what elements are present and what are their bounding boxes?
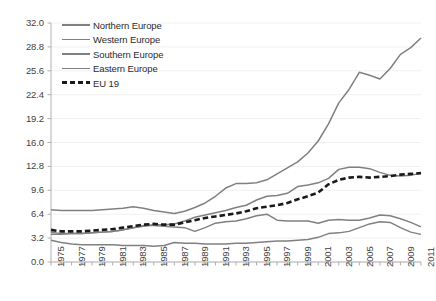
x-tick-label: 1993 bbox=[240, 246, 251, 267]
series-line bbox=[51, 214, 421, 234]
x-tick-label: 1997 bbox=[281, 246, 292, 267]
x-tick-label: 1985 bbox=[158, 246, 169, 267]
y-tick-label: 19.2 bbox=[4, 113, 44, 124]
x-tick-label: 2011 bbox=[425, 247, 436, 267]
x-tick-label: 1977 bbox=[76, 246, 87, 267]
x-tick-label: 1981 bbox=[117, 246, 128, 267]
legend-item[interactable]: Eastern Europe bbox=[62, 62, 163, 77]
x-tick-label: 2005 bbox=[364, 246, 375, 267]
x-tick-label: 2007 bbox=[384, 246, 395, 267]
x-tick-label: 1983 bbox=[137, 246, 148, 267]
x-tick-label: 1999 bbox=[302, 246, 313, 267]
x-tick-label: 2001 bbox=[322, 246, 333, 267]
x-tick-label: 1995 bbox=[261, 246, 272, 267]
y-tick-label: 6.4 bbox=[4, 208, 44, 219]
solid-line-icon bbox=[62, 49, 90, 59]
legend-item[interactable]: Southern Europe bbox=[62, 47, 163, 62]
solid-line-icon bbox=[62, 64, 90, 74]
legend-item[interactable]: Northern Europe bbox=[62, 18, 163, 33]
legend-item-label: EU 19 bbox=[93, 78, 119, 89]
y-tick-marks bbox=[48, 23, 52, 262]
x-tick-label: 1987 bbox=[179, 246, 190, 267]
x-tick-label: 1989 bbox=[199, 246, 210, 267]
legend-item[interactable]: EU 19 bbox=[62, 76, 163, 91]
chart-legend: Northern EuropeWestern EuropeSouthern Eu… bbox=[62, 18, 163, 91]
y-tick-label: 12.8 bbox=[4, 160, 44, 171]
x-tick-label: 1975 bbox=[55, 246, 66, 267]
x-tick-label: 2009 bbox=[405, 246, 416, 267]
y-tick-label: 16.0 bbox=[4, 137, 44, 148]
y-tick-label: 28.8 bbox=[4, 41, 44, 52]
y-tick-label: 32.0 bbox=[4, 17, 44, 28]
y-tick-label: 25.6 bbox=[4, 65, 44, 76]
y-tick-label: 22.4 bbox=[4, 89, 44, 100]
legend-item-label: Eastern Europe bbox=[93, 63, 158, 74]
legend-item-label: Western Europe bbox=[93, 34, 160, 45]
solid-line-icon bbox=[62, 35, 90, 45]
legend-item-label: Southern Europe bbox=[93, 49, 163, 60]
series-line bbox=[51, 222, 421, 247]
x-tick-label: 2003 bbox=[343, 246, 354, 267]
y-tick-label: 9.6 bbox=[4, 184, 44, 195]
series-line bbox=[51, 173, 421, 231]
dashed-line-icon bbox=[62, 78, 90, 88]
solid-line-icon bbox=[62, 20, 90, 30]
x-tick-label: 1979 bbox=[96, 246, 107, 267]
legend-item-label: Northern Europe bbox=[93, 20, 162, 31]
x-tick-label: 1991 bbox=[220, 246, 231, 267]
legend-item[interactable]: Western Europe bbox=[62, 33, 163, 48]
y-tick-label: 3.2 bbox=[4, 232, 44, 243]
y-tick-label: 0.0 bbox=[4, 256, 44, 267]
